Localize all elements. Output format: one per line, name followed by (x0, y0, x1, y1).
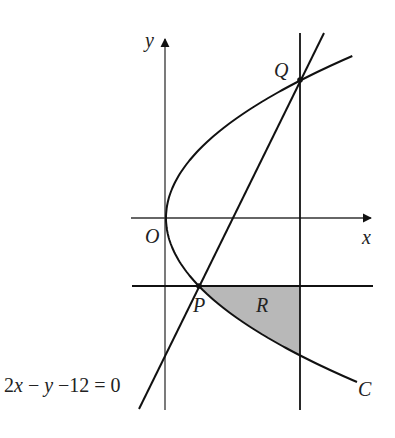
diagram-canvas: y x O Q P R C 2x − y −12 = 0 (0, 0, 395, 438)
line-equation-label: 2x − y −12 = 0 (4, 374, 121, 397)
x-axis-label: x (361, 226, 371, 248)
origin-label: O (145, 225, 159, 247)
point-p-label: P (192, 294, 205, 316)
point-p (196, 283, 202, 289)
curve-c-label: C (358, 378, 372, 400)
y-axis-label: y (143, 29, 154, 52)
shaded-region-r (199, 286, 300, 355)
point-q (297, 77, 303, 83)
parabola-c (166, 56, 357, 382)
region-r-label: R (255, 294, 268, 316)
point-q-label: Q (274, 59, 289, 81)
